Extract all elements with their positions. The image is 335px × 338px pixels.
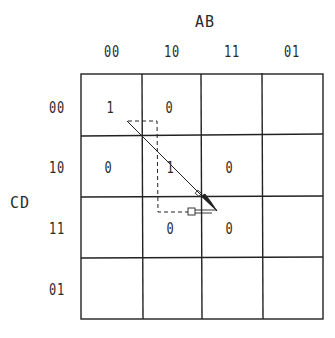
- cell-cd11-ab11: 0: [225, 222, 232, 237]
- cell-cd10-ab10: 1: [166, 161, 173, 176]
- cell-cd00-ab10: 0: [165, 101, 172, 116]
- cell-cd11-ab10: 0: [166, 222, 173, 237]
- cell-cd10-ab11: 0: [225, 161, 232, 176]
- cell-cd00-ab00: 1: [106, 101, 113, 116]
- cell-cd10-ab00: 0: [104, 161, 111, 176]
